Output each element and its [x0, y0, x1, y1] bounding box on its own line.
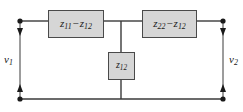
component-z22-minus-z12: z22−z12: [142, 10, 197, 38]
node-bottom-left-dot: [17, 96, 22, 101]
component-z11-minus-z12-label: z11−z12: [60, 17, 92, 31]
port-1-voltage-label: v1: [4, 53, 13, 67]
node-top-right-dot: [220, 18, 225, 23]
port-2-voltage-label: v2: [229, 53, 238, 67]
node-top-left-dot: [17, 18, 22, 23]
v2-arrowhead-up-icon: [220, 84, 226, 92]
circuit-diagram: z11−z12 z22−z12 z12 v1 v2: [0, 0, 243, 112]
component-z12: z12: [108, 52, 135, 80]
v1-arrowhead-up-icon: [17, 84, 23, 92]
component-z12-label: z12: [116, 59, 127, 72]
component-z22-minus-z12-label: z22−z12: [153, 17, 186, 31]
v2-arrowhead-down-icon: [220, 28, 226, 36]
v1-arrowhead-down-icon: [17, 28, 23, 36]
component-z11-minus-z12: z11−z12: [48, 10, 104, 38]
node-bottom-right-dot: [220, 96, 225, 101]
